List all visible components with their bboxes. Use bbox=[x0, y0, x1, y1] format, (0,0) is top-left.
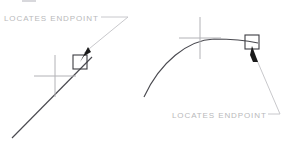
label-locates-endpoint-line: LOCATES ENDPOINT bbox=[4, 14, 99, 23]
crosshair-icon-left bbox=[34, 55, 76, 97]
arc-entity bbox=[144, 39, 258, 97]
panel-arc-endpoint: LOCATES ENDPOINT bbox=[144, 17, 280, 120]
arrow-cursor-icon-right bbox=[250, 46, 258, 62]
top-edge-artifact bbox=[22, 0, 36, 2]
label-locates-endpoint-arc: LOCATES ENDPOINT bbox=[172, 111, 267, 120]
panel-line-endpoint: LOCATES ENDPOINT bbox=[4, 0, 128, 138]
endpoint-snap-diagram: LOCATES ENDPOINT LOCATES ENDPOINT bbox=[0, 0, 288, 147]
crosshair-icon-right bbox=[179, 17, 221, 59]
leader-line-right bbox=[256, 58, 280, 114]
diagram-canvas: LOCATES ENDPOINT LOCATES ENDPOINT bbox=[0, 0, 288, 147]
